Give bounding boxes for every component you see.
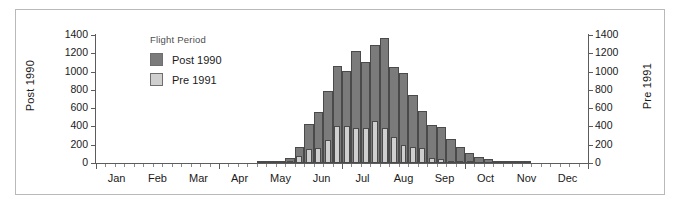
bar-pre-35 — [429, 158, 435, 163]
bar-pre-38 — [457, 161, 463, 163]
x-tick-11 — [200, 164, 201, 167]
bar-pre-24 — [325, 140, 331, 163]
y-label-r-1400: 1400 — [595, 28, 618, 40]
bar-post-40 — [474, 157, 483, 163]
y-label-l-1400: 1400 — [54, 28, 88, 40]
bar-post-45 — [522, 161, 531, 163]
bar-pre-32 — [401, 145, 407, 163]
y-tick-l-1400 — [91, 35, 95, 36]
x-tick-50 — [569, 164, 570, 167]
x-tick-21 — [295, 164, 296, 167]
x-tick-38 — [456, 164, 457, 167]
x-tick-23 — [314, 164, 315, 167]
x-tick-30 — [380, 164, 381, 167]
y-label-r-800: 800 — [595, 83, 613, 95]
y-tick-l-400 — [91, 126, 95, 127]
legend-item-pre-1991[interactable]: Pre 1991 — [150, 73, 222, 86]
x-label-apr: Apr — [231, 172, 248, 184]
bar-pre-29 — [372, 121, 378, 163]
y-tick-r-800 — [589, 90, 593, 91]
x-tick-31 — [389, 164, 390, 167]
y-tick-l-200 — [91, 145, 95, 146]
x-tick-27 — [351, 164, 352, 167]
x-tick-17 — [257, 164, 258, 167]
y-label-l-800: 800 — [54, 83, 88, 95]
x-tick-9 — [181, 164, 182, 167]
y-tick-l-800 — [91, 90, 95, 91]
y-label-r-200: 200 — [595, 138, 613, 150]
x-tick-36 — [437, 164, 438, 167]
x-tick-48 — [550, 164, 551, 167]
bar-post-37 — [446, 139, 455, 163]
x-label-oct: Oct — [477, 172, 494, 184]
x-tick-33 — [408, 164, 409, 167]
y-label-r-1000: 1000 — [595, 65, 618, 77]
bar-post-43 — [503, 161, 512, 163]
x-label-mar: Mar — [189, 172, 208, 184]
x-tick-24 — [323, 164, 324, 167]
bar-post-36 — [437, 127, 446, 163]
x-tick-1 — [105, 164, 106, 167]
x-tick-32 — [399, 164, 400, 167]
legend-swatch-pre-1991-icon — [150, 73, 163, 86]
x-tick-28 — [361, 164, 362, 167]
right-axis-title: Pre 1991 — [641, 63, 653, 109]
y-label-l-1000: 1000 — [54, 65, 88, 77]
legend-label-post-1990: Post 1990 — [172, 54, 222, 66]
bar-pre-34 — [419, 148, 425, 163]
x-tick-42 — [493, 164, 494, 167]
x-tick-6 — [153, 164, 154, 167]
x-tick-4 — [134, 164, 135, 167]
x-tick-3 — [124, 164, 125, 167]
x-tick-51 — [579, 164, 580, 167]
x-tick-44 — [512, 164, 513, 167]
bar-pre-31 — [391, 137, 397, 163]
legend-label-pre-1991: Pre 1991 — [172, 74, 217, 86]
y-tick-r-600 — [589, 108, 593, 109]
x-tick-22 — [304, 164, 305, 167]
x-tick-7 — [162, 164, 163, 167]
bar-pre-19 — [278, 161, 284, 163]
bar-pre-36 — [438, 159, 444, 163]
chart-page: Post 1990 Pre 1991 020040060080010001200… — [0, 0, 681, 205]
y-label-r-400: 400 — [595, 119, 613, 131]
y-tick-r-1400 — [589, 35, 593, 36]
x-label-nov: Nov — [517, 172, 537, 184]
y-label-l-200: 200 — [54, 138, 88, 150]
bar-post-44 — [512, 161, 521, 163]
y-tick-r-1200 — [589, 53, 593, 54]
y-label-l-1200: 1200 — [54, 46, 88, 58]
x-tick-16 — [247, 164, 248, 167]
bar-pre-30 — [382, 128, 388, 163]
y-label-r-600: 600 — [595, 101, 613, 113]
x-tick-37 — [446, 164, 447, 167]
x-tick-8 — [172, 164, 173, 167]
x-label-dec: Dec — [558, 172, 578, 184]
bar-pre-20 — [287, 161, 293, 163]
x-tick-35 — [427, 164, 428, 167]
left-axis-title: Post 1990 — [24, 60, 36, 111]
y-tick-r-200 — [589, 145, 593, 146]
bar-pre-25 — [334, 126, 340, 163]
x-label-jul: Jul — [355, 172, 369, 184]
bar-post-18 — [266, 161, 275, 163]
y-label-l-400: 400 — [54, 119, 88, 131]
bar-post-41 — [484, 159, 493, 163]
legend-item-post-1990[interactable]: Post 1990 — [150, 53, 222, 66]
x-tick-0 — [96, 164, 97, 169]
y-tick-r-0 — [589, 163, 593, 164]
y-label-r-0: 0 — [595, 156, 601, 168]
x-tick-10 — [191, 164, 192, 167]
y-tick-l-1200 — [91, 53, 95, 54]
x-label-feb: Feb — [148, 172, 167, 184]
y-tick-r-400 — [589, 126, 593, 127]
x-tick-12 — [210, 164, 211, 167]
bar-pre-39 — [467, 161, 473, 163]
bar-pre-21 — [296, 156, 302, 163]
bar-pre-23 — [315, 148, 321, 163]
bar-pre-28 — [363, 128, 369, 163]
x-tick-20 — [285, 164, 286, 167]
x-tick-45 — [522, 164, 523, 167]
y-tick-l-0 — [91, 163, 95, 164]
y-label-r-1200: 1200 — [595, 46, 618, 58]
